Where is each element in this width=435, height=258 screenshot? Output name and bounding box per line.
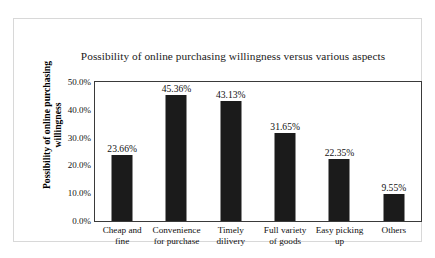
x-axis-label: Timely dilivery xyxy=(201,225,261,246)
x-axis-label-line1: Full variety xyxy=(264,225,307,235)
y-tick-label-30: 30.0% xyxy=(68,133,91,143)
x-axis-label-line1: Cheap and xyxy=(103,225,142,235)
y-tick-label-0: 0.0% xyxy=(72,216,91,226)
figure-border: Possibility of online purchasing willing… xyxy=(13,18,422,242)
bar[interactable] xyxy=(275,133,296,221)
x-axis-label-line1: Others xyxy=(382,225,407,235)
bar-value-label: 45.36% xyxy=(162,83,192,94)
bar[interactable] xyxy=(383,194,404,221)
x-axis-label-line1: Easy picking xyxy=(316,225,364,235)
y-tick-label-50: 50.0% xyxy=(68,77,91,87)
x-axis-label-line2: up xyxy=(309,236,369,247)
bar[interactable] xyxy=(112,155,133,221)
bar-value-label: 22.35% xyxy=(325,147,355,158)
x-axis-label-line2: fine xyxy=(92,236,152,247)
x-axis-label-line2: for purchase xyxy=(146,236,206,247)
chart-title: Possibility of online purchasing willing… xyxy=(50,50,416,62)
bar-value-label: 31.65% xyxy=(270,121,300,132)
bar-value-label: 43.13% xyxy=(216,89,246,100)
bar-group-convenience-for-purchase: 45.36% Convenience for purchase xyxy=(149,82,203,221)
x-axis-label: Easy picking up xyxy=(309,225,369,246)
bar-group-timely-dilivery: 43.13% Timely dilivery xyxy=(204,82,258,221)
x-axis-label: Cheap and fine xyxy=(92,225,152,246)
x-axis-label-line1: Convenience xyxy=(153,225,201,235)
y-axis-title: Possibility of online purchasing willing… xyxy=(41,50,63,200)
x-axis-label: Full variety of goods xyxy=(255,225,315,246)
bar-group-easy-picking-up: 22.35% Easy picking up xyxy=(312,82,366,221)
x-axis-label-line2: dilivery xyxy=(201,236,261,247)
bar[interactable] xyxy=(220,101,241,221)
x-axis-label: Convenience for purchase xyxy=(146,225,206,246)
bar-value-label: 9.55% xyxy=(381,182,406,193)
x-axis-label-line1: Timely xyxy=(218,225,244,235)
x-axis-label-line2: of goods xyxy=(255,236,315,247)
bar-group-cheap-and-fine: 23.66% Cheap and fine xyxy=(95,82,149,221)
bar-group-others: 9.55% Others xyxy=(367,82,421,221)
x-axis-label: Others xyxy=(364,225,424,236)
bar[interactable] xyxy=(166,95,187,221)
bar[interactable] xyxy=(329,159,350,221)
plot-area: 50.0% 40.0% 30.0% 20.0% 10.0% 0.0% 23.66… xyxy=(94,81,422,222)
bar-value-label: 23.66% xyxy=(107,143,137,154)
y-tick-label-10: 10.0% xyxy=(68,188,91,198)
y-tick-label-20: 20.0% xyxy=(68,160,91,170)
y-tick-label-40: 40.0% xyxy=(68,105,91,115)
bar-group-full-variety-of-goods: 31.65% Full variety of goods xyxy=(258,82,312,221)
